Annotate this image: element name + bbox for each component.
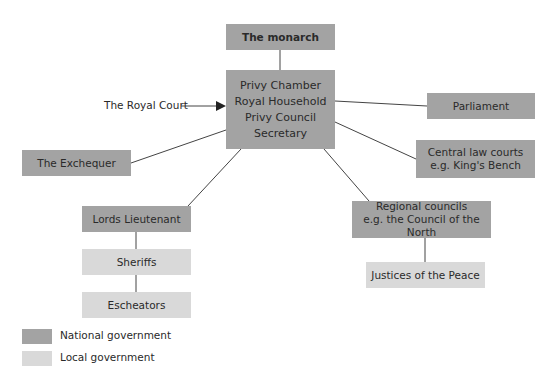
monarch-box: The monarch	[226, 24, 335, 50]
lords-lieutenant-label: Lords Lieutenant	[92, 213, 180, 226]
secretary-label: Secretary	[254, 126, 307, 142]
regional-councils-box: Regional councils e.g. the Council of th…	[352, 201, 491, 238]
monarch-label: The monarch	[242, 31, 319, 44]
justices-box: Justices of the Peace	[366, 262, 485, 288]
legend-national-label: National government	[60, 329, 171, 341]
parliament-box: Parliament	[427, 93, 535, 119]
legend-local-swatch	[22, 351, 52, 366]
legend-national-swatch	[22, 329, 52, 344]
escheators-box: Escheators	[82, 292, 191, 318]
royal-court-label: The Royal Court	[104, 99, 188, 111]
royal-household-label: Royal Household	[235, 94, 327, 110]
escheators-label: Escheators	[108, 299, 166, 312]
arrow-head-icon	[216, 101, 226, 111]
legend-local-label: Local government	[60, 351, 155, 363]
privy-council-label: Privy Council	[245, 110, 316, 126]
exchequer-box: The Exchequer	[22, 150, 131, 176]
justices-label: Justices of the Peace	[371, 269, 479, 282]
central-law-label: Central law courts	[428, 146, 524, 159]
regional-councils-label: Regional councils	[376, 200, 467, 213]
exchequer-label: The Exchequer	[37, 157, 116, 170]
lords-lieutenant-box: Lords Lieutenant	[82, 206, 191, 232]
sheriffs-label: Sheriffs	[117, 256, 157, 269]
privy-chamber-box: Privy Chamber Royal Household Privy Coun…	[226, 70, 335, 149]
parliament-label: Parliament	[453, 100, 509, 113]
central-law-example: e.g. King's Bench	[430, 159, 521, 172]
sheriffs-box: Sheriffs	[82, 249, 191, 275]
connector-lines	[0, 0, 550, 384]
central-law-courts-box: Central law courts e.g. King's Bench	[416, 140, 535, 178]
privy-chamber-label: Privy Chamber	[240, 78, 321, 94]
regional-councils-example: e.g. the Council of the North	[352, 213, 491, 239]
